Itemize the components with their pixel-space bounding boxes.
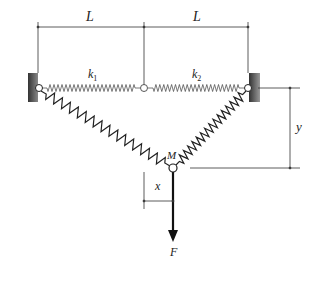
label-L-left: L [86,10,94,24]
y-dimension [190,87,300,169]
label-k2-sub: 2 [197,74,201,83]
label-force: F [170,246,177,258]
label-x: x [155,180,160,192]
spring-left-diagonal [41,91,170,166]
label-y: y [296,120,302,133]
label-mass: M [167,150,176,161]
label-k1-sub: 1 [93,74,97,83]
label-k1: k1 [88,68,97,83]
force-arrow [168,172,178,242]
spring-mass-diagram: L L k1 k2 M x y F [0,0,314,285]
label-k2: k2 [192,68,201,83]
left-pin [36,85,43,92]
spring-k1 [42,85,140,92]
center-pin [141,85,148,92]
right-pin [245,85,252,92]
label-L-right: L [193,10,201,24]
top-dimension [37,22,249,85]
diagram-canvas [0,0,314,285]
spring-k2 [148,85,244,92]
spring-right-diagonal [176,91,246,165]
mass-pin [169,164,177,172]
